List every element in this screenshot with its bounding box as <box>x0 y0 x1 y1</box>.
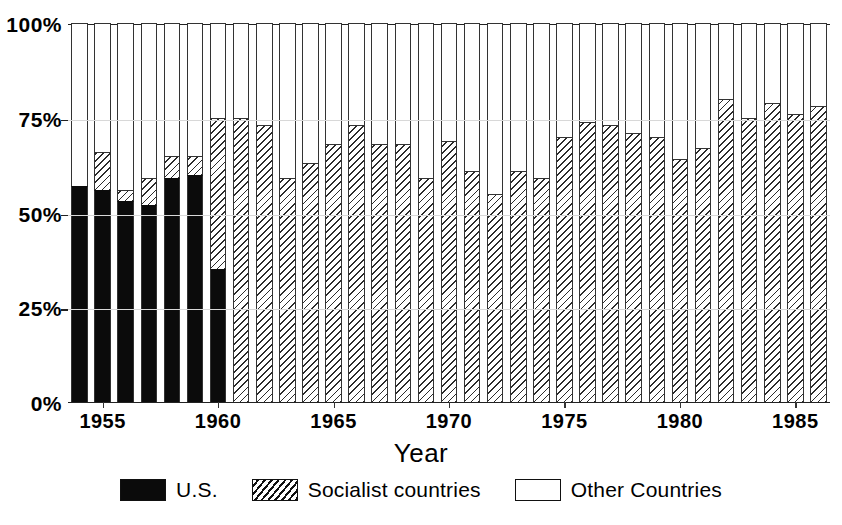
bar-column <box>672 23 689 402</box>
y-tick-label: 0% <box>4 393 62 414</box>
x-tick-label: 1975 <box>541 410 588 433</box>
bar-column <box>187 23 204 402</box>
bar-column <box>787 23 804 402</box>
bar-column <box>279 23 296 402</box>
plot-area <box>68 24 830 403</box>
bar-segment-oth <box>487 23 504 194</box>
bar-segment-soc <box>94 152 111 190</box>
solid-black-swatch <box>120 479 166 501</box>
bar-segment-us <box>210 269 227 402</box>
x-axis-title: Year <box>0 438 842 469</box>
bar-segment-oth <box>302 23 319 163</box>
bar-column <box>602 23 619 402</box>
bar-segment-soc <box>787 114 804 402</box>
bar-segment-us <box>164 178 181 402</box>
bar-column <box>718 23 735 402</box>
legend-item: Socialist countries <box>252 478 481 502</box>
bar-segment-oth <box>279 23 296 178</box>
bar-segment-oth <box>256 23 273 125</box>
bar-column <box>533 23 550 402</box>
bar-segment-soc <box>441 141 458 403</box>
x-tick-label: 1955 <box>79 410 126 433</box>
bar-segment-us <box>141 205 158 402</box>
bar-segment-oth <box>625 23 642 133</box>
bar-segment-soc <box>810 106 827 402</box>
gridline <box>68 309 830 310</box>
bar-segment-oth <box>741 23 758 118</box>
bar-segment-oth <box>233 23 250 118</box>
bar-column <box>695 23 712 402</box>
bar-column <box>464 23 481 402</box>
bar-segment-soc <box>649 137 666 402</box>
bar-column <box>325 23 342 402</box>
bar-segment-us <box>94 190 111 402</box>
bar-segment-soc <box>556 137 573 402</box>
bar-column <box>371 23 388 402</box>
x-tick-label: 1970 <box>426 410 473 433</box>
y-tick-mark <box>61 215 68 217</box>
white-swatch <box>515 479 561 501</box>
bar-segment-soc <box>279 178 296 402</box>
bar-segment-soc <box>371 144 388 402</box>
bar-segment-oth <box>718 23 735 99</box>
bar-column <box>741 23 758 402</box>
bar-column <box>141 23 158 402</box>
bar-segment-soc <box>187 156 204 175</box>
bar-column <box>625 23 642 402</box>
bar-column <box>117 23 134 402</box>
bar-segment-soc <box>325 144 342 402</box>
bar-segment-oth <box>602 23 619 125</box>
bar-segment-soc <box>256 125 273 402</box>
hatched-swatch <box>252 479 298 501</box>
bar-segment-oth <box>71 23 88 186</box>
bar-segment-oth <box>117 23 134 190</box>
bar-column <box>302 23 319 402</box>
bar-segment-oth <box>395 23 412 144</box>
x-tick-label: 1960 <box>195 410 242 433</box>
x-tick-label: 1985 <box>772 410 819 433</box>
bar-segment-oth <box>764 23 781 103</box>
bar-segment-oth <box>579 23 596 122</box>
y-tick-label: 100% <box>4 14 62 35</box>
y-tick-mark <box>61 120 68 122</box>
gridline <box>68 215 830 216</box>
bar-segment-oth <box>371 23 388 144</box>
bar-segment-us <box>71 186 88 402</box>
y-tick-label: 50% <box>4 204 62 225</box>
chart-figure: 0%25%50%75%100% 195519601965197019751980… <box>0 0 842 525</box>
bar-segment-soc <box>302 163 319 402</box>
bar-column <box>810 23 827 402</box>
bar-column <box>579 23 596 402</box>
legend-label: Socialist countries <box>308 478 481 502</box>
bar-segment-oth <box>164 23 181 156</box>
bar-column <box>418 23 435 402</box>
bar-column <box>210 23 227 402</box>
chart-legend: U.S.Socialist countriesOther Countries <box>0 478 842 502</box>
x-tick-label: 1965 <box>310 410 357 433</box>
bar-segment-oth <box>810 23 827 106</box>
bar-column <box>487 23 504 402</box>
legend-item: U.S. <box>120 478 218 502</box>
bar-segment-oth <box>418 23 435 178</box>
bar-segment-soc <box>418 178 435 402</box>
bar-column <box>510 23 527 402</box>
bar-column <box>71 23 88 402</box>
bar-segment-oth <box>348 23 365 125</box>
x-axis-labels: 1955196019651970197519801985 <box>68 404 830 438</box>
bar-segment-oth <box>672 23 689 159</box>
x-tick-label: 1980 <box>657 410 704 433</box>
bar-column <box>441 23 458 402</box>
bar-segment-soc <box>579 122 596 402</box>
bar-column <box>233 23 250 402</box>
bar-segment-soc <box>533 178 550 402</box>
bar-segment-soc <box>117 190 134 201</box>
gridline <box>68 120 830 121</box>
bar-segment-soc <box>395 144 412 402</box>
legend-label: U.S. <box>176 478 218 502</box>
bar-segment-oth <box>325 23 342 144</box>
bar-segment-soc <box>602 125 619 402</box>
bar-segment-oth <box>464 23 481 171</box>
bar-column <box>556 23 573 402</box>
bar-column <box>348 23 365 402</box>
bar-segment-soc <box>464 171 481 402</box>
